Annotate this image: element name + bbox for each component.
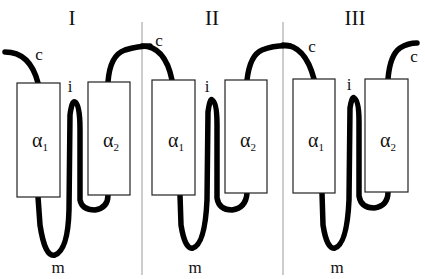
panel-1-label-i: i: [68, 77, 73, 96]
panel-2: II c i m α1 α2: [142, 6, 290, 277]
panel-2-label-i: i: [205, 77, 210, 96]
panel-3-label-c2: c: [410, 47, 418, 66]
panel-2-numeral: II: [205, 6, 219, 30]
panel-3-label-c: c: [308, 37, 316, 56]
panel-3: III c c i m α1 α2: [283, 6, 418, 277]
panel-1-numeral: I: [69, 6, 76, 30]
panel-3-label-i: i: [347, 75, 352, 94]
panel-2-label-c: c: [155, 31, 163, 50]
panel-2-label-m: m: [188, 258, 201, 277]
panel-3-label-m: m: [330, 258, 343, 277]
panel-1-label-c: c: [35, 45, 43, 64]
panel-1-label-m: m: [51, 258, 64, 277]
panel-3-numeral: III: [345, 6, 366, 30]
panel-1: I c i m α1 α2: [5, 6, 150, 277]
topology-diagram: I c i m α1 α2 II c i m α1 α2 III c c i m…: [0, 0, 425, 279]
